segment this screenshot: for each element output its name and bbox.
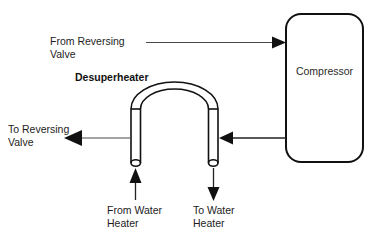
to-reversing-valve-label-line1: To Reversing: [8, 123, 69, 135]
desuperheater-right-leg-opening: [209, 160, 219, 166]
flow-compressor-to-desuperheater: [219, 132, 286, 145]
flow-from-water-heater: From Water Heater: [107, 168, 163, 229]
from-water-heater-label-line1: From Water: [107, 204, 163, 216]
to-water-heater-label-line1: To Water: [193, 204, 235, 216]
compressor-component: Compressor: [286, 14, 363, 162]
from-reversing-valve-label-line2: Valve: [50, 48, 76, 60]
compressor-label: Compressor: [296, 65, 354, 77]
flow-from-reversing-valve: From Reversing Valve: [50, 35, 286, 60]
to-water-heater-label-line2: Heater: [193, 217, 225, 229]
to-reversing-valve-label-line2: Valve: [8, 136, 34, 148]
diagram-canvas: Compressor Desuperheater From Reversing …: [0, 0, 370, 241]
desuperheater-left-leg-opening: [131, 160, 141, 166]
from-water-heater-label-line2: Heater: [107, 217, 139, 229]
from-reversing-valve-arrowhead: [272, 37, 286, 49]
desuperheater-component: Desuperheater: [75, 71, 218, 166]
flow-to-reversing-valve: To Reversing Valve: [8, 123, 131, 148]
flow-to-water-heater: To Water Heater: [193, 168, 235, 229]
to-water-heater-arrowhead: [208, 187, 220, 201]
from-reversing-valve-label-line1: From Reversing: [50, 35, 125, 47]
desuperheater-diagram: Compressor Desuperheater From Reversing …: [0, 0, 370, 241]
from-water-heater-arrowhead: [130, 168, 142, 183]
compressor-box: [286, 14, 363, 162]
desuperheater-outer-wall: [131, 82, 218, 163]
desuperheater-label: Desuperheater: [75, 71, 149, 83]
compressor-to-desuperheater-arrowhead: [219, 132, 233, 145]
desuperheater-inner-wall: [141, 89, 209, 163]
